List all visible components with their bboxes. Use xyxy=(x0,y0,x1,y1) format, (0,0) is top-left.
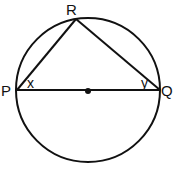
label-q: Q xyxy=(161,82,173,99)
label-p: P xyxy=(1,82,11,99)
center-point xyxy=(85,88,91,94)
circle-diagram: R P Q x y xyxy=(0,0,173,171)
angle-x-label: x xyxy=(27,75,34,91)
label-r: R xyxy=(66,1,77,18)
angle-y-label: y xyxy=(141,75,148,91)
